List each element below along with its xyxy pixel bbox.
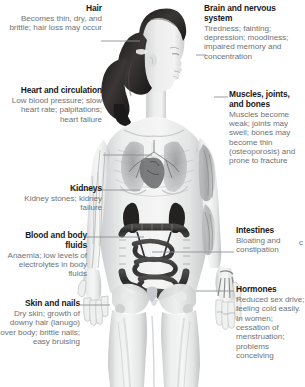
callout-hair-title: Hair — [2, 4, 102, 14]
callout-kidneys: Kidneys Kidney stones; kidney failure — [2, 184, 102, 213]
legs-group — [108, 310, 200, 387]
head-group — [101, 8, 186, 126]
callout-heart-title: Heart and circulation — [2, 86, 102, 96]
callout-intestines: Intestines Bloating and constipation — [236, 226, 305, 255]
callout-skin: Skin and nails Dry skin; growth of downy… — [0, 299, 80, 346]
callout-heart-body: Low blood pressure; slow heart rate; pal… — [2, 96, 102, 124]
callout-heart: Heart and circulation Low blood pressure… — [2, 86, 102, 124]
callout-blood-body: Anaemia; low levels of electrolytes in b… — [2, 251, 87, 279]
clipped-edge-text: c — [299, 238, 305, 247]
callout-skin-body: Dry skin; growth of downy hair (lanugo) … — [0, 309, 80, 347]
torso-group — [98, 116, 209, 314]
callout-skin-title: Skin and nails — [0, 299, 80, 309]
callout-brain-body: Tiredness; fainting; depression; moodine… — [204, 24, 305, 62]
right-arm-group — [196, 138, 241, 330]
clipped-edge-fragment: c — [299, 238, 305, 247]
callout-blood-title: Blood and body fluids — [2, 231, 87, 251]
callout-brain-title: Brain and nervous system — [204, 4, 305, 24]
callout-kidneys-title: Kidneys — [2, 184, 102, 194]
callout-hormones-body: Reduced sex drive; feeling cold easily. … — [236, 295, 305, 361]
callout-hormones: Hormones Reduced sex drive; feeling cold… — [236, 285, 305, 360]
callout-brain: Brain and nervous system Tiredness; fain… — [204, 4, 305, 61]
callout-muscles-title: Muscles, joints, and bones — [229, 90, 305, 110]
callout-kidneys-body: Kidney stones; kidney failure — [2, 194, 102, 213]
callout-hair: Hair Becomes thin, dry, and brittle; hai… — [2, 4, 102, 33]
callout-muscles-body: Muscles become weak; joints may swell; b… — [229, 110, 305, 166]
diagram-canvas: Hair Becomes thin, dry, and brittle; hai… — [0, 0, 305, 387]
callout-hair-body: Becomes thin, dry, and brittle; hair los… — [2, 14, 102, 33]
callout-muscles: Muscles, joints, and bones Muscles becom… — [229, 90, 305, 166]
callout-intestines-body: Bloating and constipation — [236, 236, 305, 255]
callout-hormones-title: Hormones — [236, 285, 305, 295]
callout-intestines-title: Intestines — [236, 226, 305, 236]
callout-blood: Blood and body fluids Anaemia; low level… — [2, 231, 87, 279]
